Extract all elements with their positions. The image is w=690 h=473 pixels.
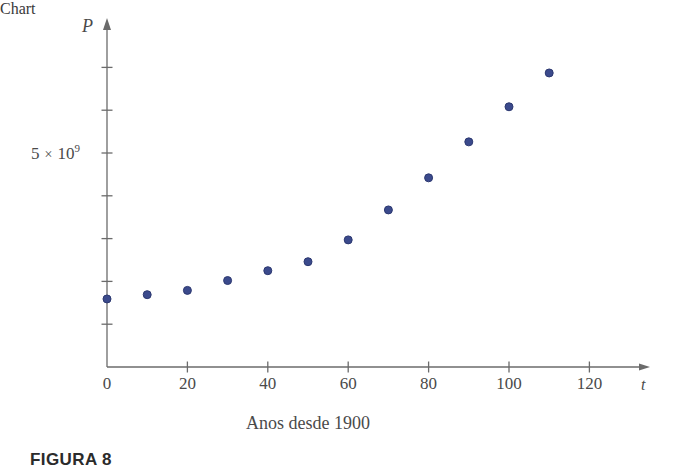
data-point bbox=[425, 174, 433, 182]
data-point bbox=[384, 206, 392, 214]
y-tick-exponent: 9 bbox=[74, 142, 80, 154]
x-tick-label: 0 bbox=[103, 374, 112, 394]
x-tick-label: 120 bbox=[577, 374, 603, 394]
data-point bbox=[143, 291, 151, 299]
x-tick-label: 100 bbox=[496, 374, 522, 394]
y-tick-base: 10 bbox=[57, 144, 74, 163]
data-point bbox=[103, 295, 111, 303]
x-tick-label: 60 bbox=[340, 374, 357, 394]
data-point bbox=[224, 277, 232, 285]
y-tick-times-sign: × bbox=[45, 147, 53, 162]
x-tick-label: 80 bbox=[420, 374, 437, 394]
y-tick-label: 5×109 bbox=[31, 143, 80, 162]
x-axis-symbol: t bbox=[641, 377, 645, 393]
y-axis-symbol: P bbox=[82, 17, 93, 35]
data-points-group bbox=[103, 69, 553, 303]
x-axis-title: Anos desde 1900 bbox=[246, 414, 370, 432]
x-tick-label: 40 bbox=[259, 374, 276, 394]
y-tick-mantissa: 5 bbox=[31, 144, 40, 163]
axes-group bbox=[103, 18, 650, 371]
data-point bbox=[264, 267, 272, 275]
tick-marks-group bbox=[102, 67, 590, 372]
x-tick-label: 20 bbox=[179, 374, 196, 394]
data-point bbox=[304, 258, 312, 266]
data-point bbox=[505, 103, 513, 111]
y-axis-arrowhead bbox=[103, 18, 111, 30]
figure-caption: FIGURA 8 bbox=[30, 450, 112, 470]
data-point bbox=[183, 286, 191, 294]
figure-container: P t 5×109 020406080100120 Anos desde 190… bbox=[0, 0, 690, 473]
data-point bbox=[344, 236, 352, 244]
scatter-plot-canvas bbox=[0, 0, 690, 473]
data-point bbox=[545, 69, 553, 77]
data-point bbox=[465, 138, 473, 146]
x-axis-arrowhead bbox=[639, 363, 650, 370]
